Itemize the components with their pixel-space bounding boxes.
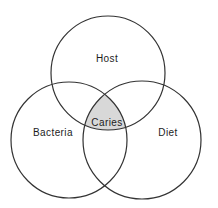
host-label: Host xyxy=(96,53,118,64)
venn-diagram-canvas: Host Bacteria Diet Caries xyxy=(0,0,218,208)
caries-venn-diagram: Host Bacteria Diet Caries xyxy=(0,0,218,208)
caries-label: Caries xyxy=(91,117,122,128)
diet-label: Diet xyxy=(158,127,177,138)
bacteria-circle xyxy=(11,82,127,198)
bacteria-label: Bacteria xyxy=(33,127,73,138)
diet-circle xyxy=(83,81,201,199)
